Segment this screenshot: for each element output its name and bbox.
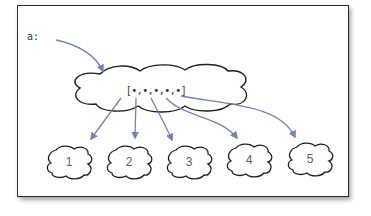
element-label-5: 5 xyxy=(300,152,320,166)
element-label-1: 1 xyxy=(59,155,79,169)
element-label-4: 4 xyxy=(239,153,259,167)
element-label-3: 3 xyxy=(179,155,199,169)
diagram-canvas xyxy=(0,0,371,216)
element-label-2: 2 xyxy=(119,155,139,169)
variable-arrow xyxy=(56,40,103,71)
variable-label: a: xyxy=(27,31,39,42)
list-contents: [•,•,•,•,•] xyxy=(113,85,199,96)
